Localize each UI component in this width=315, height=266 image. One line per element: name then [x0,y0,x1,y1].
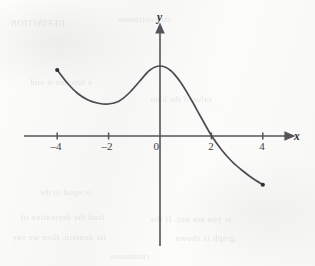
coordinate-plot [0,0,315,266]
graph-figure: DEFINITIONthe continuousa function is sa… [0,0,315,266]
endpoint-dot [261,183,265,187]
endpoint-dot [55,68,59,72]
